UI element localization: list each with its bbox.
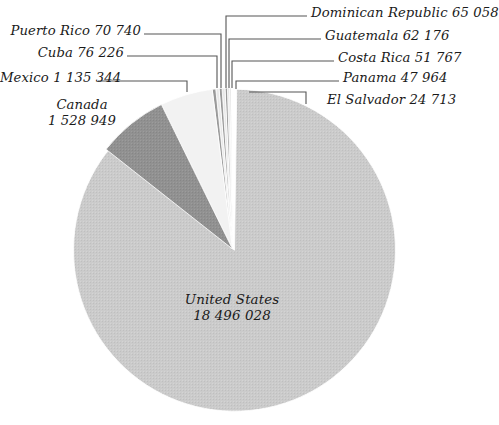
slice-label-puerto-rico: Puerto Rico 70 740 <box>0 23 141 39</box>
slice-label-united-states: United States 18 496 028 <box>152 292 312 324</box>
slice-label-united-states-name: United States <box>152 292 312 308</box>
slice-label-mexico: Mexico 1 135 344 <box>0 70 95 86</box>
slice-label-panama: Panama 47 964 <box>343 70 448 86</box>
slice-label-united-states-value: 18 496 028 <box>152 308 312 324</box>
slice-label-guatemala: Guatemala 62 176 <box>325 28 449 44</box>
slice-label-el-salvador: El Salvador 24 713 <box>327 92 456 108</box>
slice-label-dominican-republic: Dominican Republic 65 058 <box>311 5 499 21</box>
slice-label-canada-value: 1 528 949 <box>22 113 142 129</box>
leader-puerto-rico <box>144 34 221 88</box>
slice-label-cuba: Cuba 76 226 <box>0 45 124 61</box>
leader-dominican-republic <box>226 16 307 88</box>
leader-cuba <box>127 56 217 88</box>
pie-slices-group <box>73 88 395 411</box>
slice-label-canada: Canada 1 528 949 <box>22 97 142 128</box>
slice-label-costa-rica: Costa Rica 51 767 <box>338 50 462 66</box>
leader-costa-rica <box>232 61 334 88</box>
leader-panama <box>236 81 339 89</box>
slice-label-canada-name: Canada <box>22 97 142 113</box>
